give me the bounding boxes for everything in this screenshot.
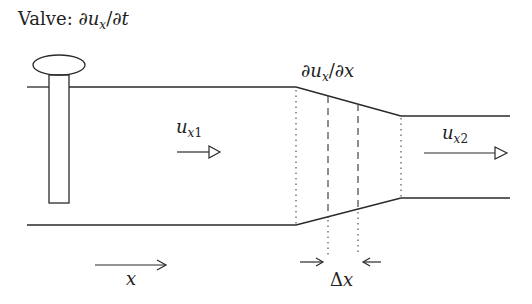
inlet-velocity-label: ux1 — [176, 118, 202, 139]
valve-stem — [49, 75, 69, 203]
delta-symbol: Δ — [330, 269, 343, 290]
partial-divider: /∂ — [106, 8, 121, 29]
subscript-index: 2 — [460, 132, 468, 146]
position-symbol: x — [344, 60, 354, 81]
delta-x-label: Δx — [330, 271, 353, 289]
flow-arrow-in-icon — [177, 146, 220, 158]
partial-symbol: ∂ — [301, 60, 310, 81]
partial-divider: /∂ — [329, 60, 344, 81]
flow-arrow-out-icon — [424, 147, 507, 159]
subscript-x: x — [322, 70, 329, 84]
valve-label-prefix: Valve: — [18, 8, 78, 29]
partial-symbol: ∂ — [78, 8, 87, 29]
valve-handle-icon — [33, 55, 85, 75]
x-axis-label: x — [126, 270, 136, 288]
time-symbol: t — [122, 8, 129, 29]
subscript-index: 1 — [194, 126, 202, 140]
position-symbol: x — [343, 269, 353, 290]
velocity-symbol: u — [88, 8, 100, 29]
outlet-velocity-label: ux2 — [442, 124, 468, 145]
converging-top-wall — [296, 87, 401, 116]
converging-bottom-wall — [296, 198, 401, 225]
delta-x-arrows-icon — [300, 258, 381, 266]
velocity-symbol: u — [176, 116, 188, 137]
velocity-symbol: u — [310, 60, 322, 81]
gradient-label: ∂ux/∂x — [301, 62, 354, 83]
pipe-valve-diagram — [0, 0, 532, 304]
velocity-symbol: u — [442, 122, 454, 143]
valve-label: Valve: ∂ux/∂t — [18, 10, 129, 31]
